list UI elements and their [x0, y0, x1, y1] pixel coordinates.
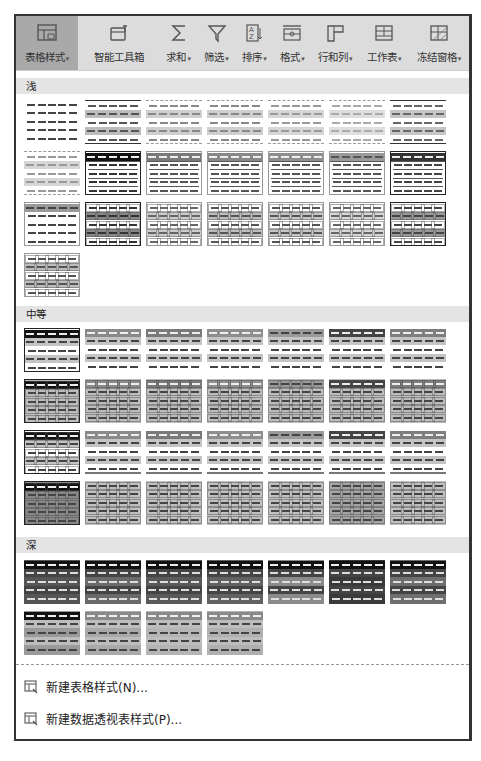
table-style-thumbnail[interactable]	[24, 430, 80, 474]
table-style-thumbnail[interactable]	[85, 151, 141, 195]
table-style-thumbnail[interactable]	[390, 151, 446, 195]
table-style-thumbnail[interactable]	[207, 202, 263, 246]
table-style-thumbnail[interactable]	[85, 100, 141, 144]
table-style-thumbnail[interactable]	[207, 151, 263, 195]
table-style-thumbnail[interactable]	[24, 328, 80, 372]
table-style-thumbnail[interactable]	[24, 560, 80, 604]
table-style-thumbnail[interactable]	[146, 202, 202, 246]
table-style-thumbnail[interactable]	[268, 202, 324, 246]
table-style-thumbnail[interactable]	[268, 560, 324, 604]
table-style-thumbnail[interactable]	[390, 379, 446, 423]
table-style-thumbnail[interactable]	[329, 328, 385, 372]
table-style-thumbnail[interactable]	[268, 481, 324, 525]
table-style-thumbnail[interactable]	[268, 379, 324, 423]
new-table-style-icon	[24, 679, 38, 693]
table-style-thumbnail[interactable]	[24, 202, 80, 246]
table-style-thumbnail[interactable]	[146, 481, 202, 525]
table-style-thumbnail[interactable]	[329, 379, 385, 423]
table-style-thumbnail[interactable]	[207, 430, 263, 474]
new-pivot-style-icon	[24, 711, 38, 725]
freeze-panes-icon	[428, 22, 450, 44]
table-style-thumbnail[interactable]	[329, 430, 385, 474]
table-style-thumbnail[interactable]	[390, 430, 446, 474]
sum-button[interactable]: 求和▾	[160, 16, 198, 70]
smart-toolbox-label: 智能工具箱	[94, 51, 144, 63]
table-style-thumbnail[interactable]	[85, 611, 141, 655]
menu-divider	[16, 664, 469, 665]
table-style-thumbnail[interactable]	[329, 151, 385, 195]
table-style-thumbnail[interactable]	[146, 328, 202, 372]
table-style-thumbnail[interactable]	[24, 379, 80, 423]
rows-cols-button[interactable]: 行和列▾	[311, 16, 359, 70]
table-style-thumbnail[interactable]	[329, 481, 385, 525]
new-table-style-label: 新建表格样式(N)...	[46, 678, 148, 695]
table-style-thumbnail[interactable]	[207, 560, 263, 604]
table-style-thumbnail[interactable]	[207, 328, 263, 372]
table-style-thumbnail[interactable]	[329, 100, 385, 144]
new-pivot-style-label: 新建数据透视表样式(P)...	[46, 710, 182, 727]
filter-button[interactable]: 筛选▾	[198, 16, 236, 70]
worksheet-icon	[373, 22, 395, 44]
new-pivot-style-menu-item[interactable]: 新建数据透视表样式(P)...	[16, 706, 469, 730]
chevron-down-icon: ▾	[66, 55, 70, 63]
table-style-icon	[36, 22, 58, 44]
table-style-thumbnail[interactable]	[85, 481, 141, 525]
filter-label: 筛选	[204, 51, 224, 63]
table-style-thumbnail[interactable]	[390, 560, 446, 604]
table-style-thumbnail[interactable]	[268, 328, 324, 372]
table-style-thumbnail[interactable]	[146, 430, 202, 474]
table-style-thumbnail[interactable]	[390, 481, 446, 525]
chevron-down-icon: ▾	[301, 55, 305, 63]
table-style-thumbnail[interactable]	[146, 611, 202, 655]
section-header-medium: 中等	[16, 306, 469, 322]
table-style-thumbnail[interactable]	[329, 202, 385, 246]
chevron-down-icon: ▾	[187, 55, 191, 63]
freeze-panes-label: 冻结窗格	[417, 51, 457, 63]
table-style-thumbnail[interactable]	[207, 379, 263, 423]
table-style-thumbnail[interactable]	[146, 560, 202, 604]
filter-icon	[206, 22, 228, 44]
new-table-style-menu-item[interactable]: 新建表格样式(N)...	[16, 674, 469, 698]
table-style-thumbnail[interactable]	[24, 253, 80, 297]
table-style-thumbnail[interactable]	[85, 430, 141, 474]
table-style-thumbnail[interactable]	[207, 481, 263, 525]
table-style-thumbnail[interactable]	[24, 481, 80, 525]
table-style-thumbnail[interactable]	[24, 611, 80, 655]
table-style-button[interactable]: 表格样式▾	[16, 16, 78, 70]
worksheet-button[interactable]: 工作表▾	[359, 16, 409, 70]
table-style-thumbnail[interactable]	[146, 379, 202, 423]
table-style-thumbnail[interactable]	[207, 611, 263, 655]
table-style-thumbnail[interactable]	[268, 100, 324, 144]
smart-toolbox-button[interactable]: 智能工具箱	[78, 16, 160, 70]
table-style-thumbnail[interactable]	[390, 100, 446, 144]
table-style-thumbnail[interactable]	[268, 430, 324, 474]
chevron-down-icon: ▾	[458, 55, 462, 63]
section-header-light: 浅	[16, 78, 469, 94]
section-header-dark: 深	[16, 537, 469, 553]
table-style-thumbnail[interactable]	[146, 100, 202, 144]
table-style-thumbnail[interactable]	[85, 202, 141, 246]
worksheet-label: 工作表	[367, 51, 397, 63]
table-style-thumbnail[interactable]	[85, 560, 141, 604]
format-icon	[281, 22, 303, 44]
svg-text:Z: Z	[249, 33, 254, 41]
sigma-icon	[168, 22, 190, 44]
freeze-panes-button[interactable]: 冻结窗格▾	[409, 16, 469, 70]
ribbon-toolbar: 表格样式▾ 智能工具箱 求和▾ 筛选▾ AZ 排序▾	[16, 16, 469, 71]
table-style-thumbnail[interactable]	[207, 100, 263, 144]
table-style-thumbnail[interactable]	[146, 151, 202, 195]
table-style-thumbnail[interactable]	[24, 100, 80, 144]
table-style-thumbnail[interactable]	[85, 328, 141, 372]
sort-button[interactable]: AZ 排序▾	[236, 16, 274, 70]
table-style-thumbnail[interactable]	[268, 151, 324, 195]
table-style-thumbnail[interactable]	[390, 328, 446, 372]
chevron-down-icon: ▾	[263, 55, 267, 63]
sum-label: 求和	[166, 51, 186, 63]
table-style-thumbnail[interactable]	[85, 379, 141, 423]
table-style-thumbnail[interactable]	[24, 151, 80, 195]
table-style-thumbnail[interactable]	[329, 560, 385, 604]
sort-label: 排序	[242, 51, 262, 63]
table-style-thumbnail[interactable]	[390, 202, 446, 246]
rows-cols-label: 行和列	[318, 51, 348, 63]
format-button[interactable]: 格式▾	[273, 16, 311, 70]
